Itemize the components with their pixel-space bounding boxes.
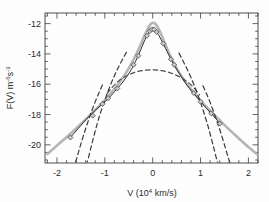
model-fit-thick-gray: [47, 23, 257, 154]
y-tick-label: -14: [28, 49, 41, 59]
x-tick-label: 0: [150, 168, 155, 178]
svg-text:F(V) m-6s-3: F(V) m-6s-3: [5, 66, 16, 109]
y-axis-tick-labels: -20-18-16-14-12: [28, 19, 41, 150]
data-point-markers: [68, 27, 222, 140]
plot-box: [45, 13, 258, 163]
plot-canvas: -2-1012 -20-18-16-14-12 V (104 km/s) F(V…: [0, 0, 269, 202]
data-curves: [47, 23, 257, 163]
y-tick-label: -12: [28, 19, 41, 29]
x-tick-label: 2: [246, 168, 251, 178]
y-tick-label: -20: [28, 140, 41, 150]
y-tick-label: -18: [28, 110, 41, 120]
svg-text:V (104 km/s): V (104 km/s): [127, 188, 176, 199]
chart-figure: -2-1012 -20-18-16-14-12 V (104 km/s) F(V…: [0, 0, 269, 202]
plot-frame: [45, 13, 258, 163]
x-axis-title: V (104 km/s): [127, 188, 176, 199]
x-tick-label: 1: [198, 168, 203, 178]
x-axis-tick-labels: -2-1012: [53, 168, 251, 178]
y-axis-title: F(V) m-6s-3: [5, 66, 16, 109]
x-tick-label: -2: [53, 168, 61, 178]
observed-data-black: [70, 29, 220, 138]
axis-ticks: [45, 13, 258, 163]
x-tick-label: -1: [101, 168, 109, 178]
y-tick-label: -16: [28, 79, 41, 89]
